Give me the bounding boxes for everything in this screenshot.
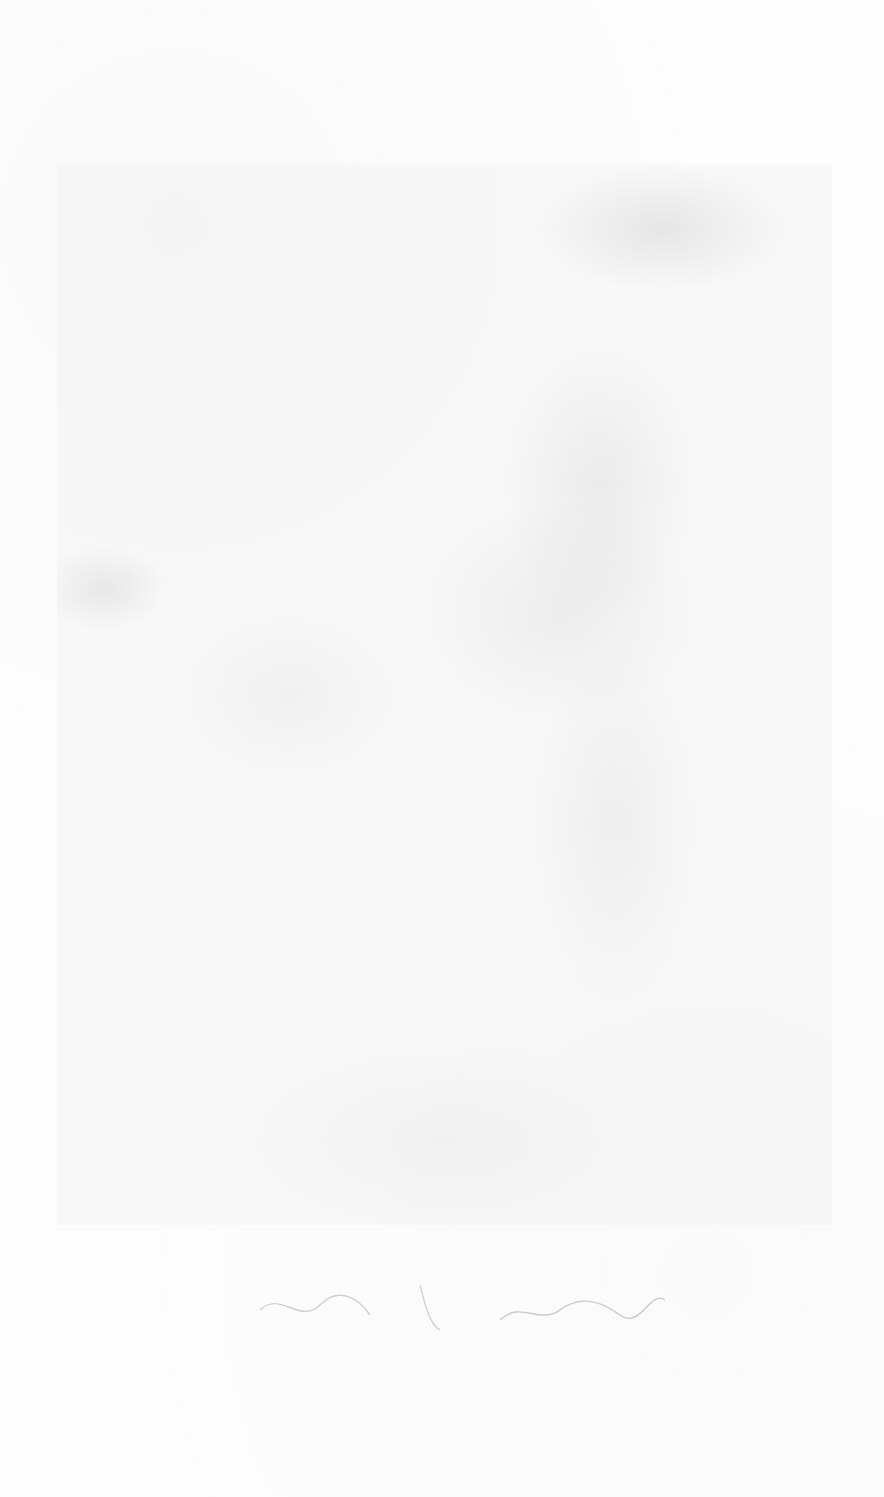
handwritten-signature [250, 1270, 680, 1340]
print-plate-image [57, 165, 832, 1225]
paper-sheet [0, 0, 884, 1497]
